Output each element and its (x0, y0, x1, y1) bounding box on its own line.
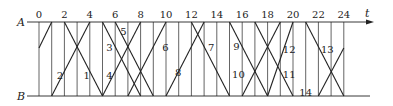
segment-number: 9 (233, 41, 239, 52)
tick-label: 10 (160, 9, 173, 20)
tick-label: 12 (185, 9, 198, 20)
timing-diagram: ABt0246810121416182022241234567891011121… (0, 0, 393, 106)
signal-segment (39, 22, 52, 48)
tick-label: 8 (137, 9, 143, 20)
tick-label: 14 (210, 9, 223, 20)
segment-number: 4 (106, 70, 112, 81)
segment-number: 8 (175, 67, 181, 78)
signal-segment (166, 22, 204, 96)
segment-number: 2 (57, 70, 63, 81)
axis-label-b: B (16, 90, 25, 103)
tick-label: 24 (337, 9, 350, 20)
segment-number: 1 (83, 70, 89, 81)
signal-segment (255, 22, 293, 96)
segment-number: 10 (232, 69, 245, 80)
arrow-icon (366, 20, 374, 25)
tick-label: 18 (261, 9, 274, 20)
tick-label: 2 (61, 9, 67, 20)
tick-label: 16 (236, 9, 249, 20)
tick-label: 0 (36, 9, 42, 20)
axis-label-a: A (16, 16, 25, 29)
diagram-canvas: ABt0246810121416182022241234567891011121… (0, 0, 393, 106)
segment-number: 13 (321, 44, 334, 55)
segment-number: 5 (120, 26, 126, 37)
tick-label: 4 (87, 9, 93, 20)
tick-label: 22 (312, 9, 325, 20)
time-label: t (365, 7, 370, 20)
segment-number: 12 (283, 44, 296, 55)
signal-segment (242, 22, 280, 96)
segment-number: 6 (162, 42, 168, 53)
tick-label: 6 (112, 9, 118, 20)
segment-number: 7 (208, 42, 214, 53)
tick-label: 20 (287, 9, 300, 20)
segment-number: 14 (299, 87, 312, 98)
signal-segment (64, 22, 102, 96)
signal-segment (52, 22, 90, 96)
segment-number: 3 (106, 42, 112, 53)
signal-segment (128, 22, 166, 96)
signal-segment (191, 22, 229, 96)
signal-segment (230, 22, 268, 96)
segment-number: 11 (283, 69, 296, 80)
